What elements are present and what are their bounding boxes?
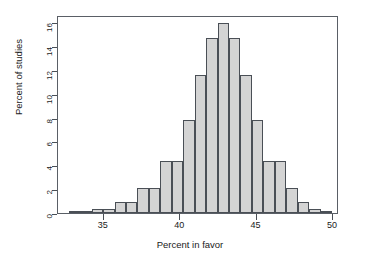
- histogram-bar: [126, 202, 137, 213]
- histogram-bar: [252, 120, 263, 213]
- histogram-bar: [218, 23, 229, 213]
- histogram-bar: [263, 161, 274, 213]
- histogram-bar: [195, 75, 206, 213]
- y-axis-tick-label: 12: [46, 71, 54, 80]
- histogram-bar: [240, 75, 251, 213]
- histogram-bar: [309, 209, 320, 213]
- y-axis-tick-label: 0: [46, 214, 54, 218]
- y-axis-tick-label: 14: [46, 47, 54, 56]
- histogram-bar: [103, 209, 114, 213]
- x-axis: 35404550: [57, 214, 338, 220]
- histogram-bar: [298, 202, 309, 213]
- histogram-bar: [137, 188, 148, 213]
- y-axis-tick-label: 2: [46, 190, 54, 194]
- histogram-bar: [229, 38, 240, 213]
- x-axis-tick-label: 45: [251, 221, 261, 230]
- histogram-bars: [58, 17, 337, 213]
- x-axis-tick-label: 40: [174, 221, 184, 230]
- x-axis-title: Percent in favor: [0, 239, 380, 250]
- plot-area: [57, 16, 338, 214]
- histogram-bar: [69, 211, 80, 213]
- y-axis-tick-label: 4: [46, 166, 54, 170]
- y-axis-title: Percent of studies: [14, 39, 24, 115]
- histogram-bar: [183, 120, 194, 213]
- histogram-bar: [149, 188, 160, 213]
- histogram-bar: [92, 209, 103, 213]
- histogram-bar: [321, 211, 332, 213]
- histogram-bar: [206, 38, 217, 213]
- histogram-bar: [160, 161, 171, 213]
- histogram-bar: [275, 161, 286, 213]
- y-axis-tick-label: 8: [46, 119, 54, 123]
- histogram-bar: [172, 161, 183, 213]
- y-axis-tick-label: 10: [46, 95, 54, 104]
- histogram-bar: [80, 211, 91, 213]
- y-axis-tick-label: 6: [46, 142, 54, 146]
- y-axis-tick-label: 16: [46, 23, 54, 32]
- histogram-bar: [286, 188, 297, 213]
- x-axis-tick-label: 35: [98, 221, 108, 230]
- histogram-bar: [115, 202, 126, 213]
- x-axis-tick-label: 50: [327, 221, 337, 230]
- histogram-figure: Percent of studies 0246810121416 3540455…: [0, 0, 380, 268]
